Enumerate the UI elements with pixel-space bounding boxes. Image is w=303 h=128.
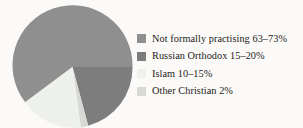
legend-swatch-russian-orthodox [137, 52, 146, 61]
legend-label-russian-orthodox: Russian Orthodox 15–20% [152, 50, 265, 62]
chart-legend: Not formally practising 63–73% Russian O… [137, 30, 303, 100]
pie-chart-figure: Not formally practising 63–73% Russian O… [0, 0, 303, 128]
legend-item-islam: Islam 10–15% [137, 65, 303, 83]
legend-swatch-other-christian [137, 87, 146, 96]
pie-chart-area [0, 0, 145, 128]
legend-label-islam: Islam 10–15% [152, 68, 212, 80]
legend-label-other-christian: Other Christian 2% [152, 85, 233, 97]
pie-chart-svg [0, 0, 145, 128]
legend-swatch-islam [137, 69, 146, 78]
legend-swatch-not-formally-practising [137, 34, 146, 43]
legend-item-russian-orthodox: Russian Orthodox 15–20% [137, 48, 303, 66]
legend-item-not-formally-practising: Not formally practising 63–73% [137, 30, 303, 48]
legend-label-not-formally-practising: Not formally practising 63–73% [152, 33, 287, 45]
legend-item-other-christian: Other Christian 2% [137, 83, 303, 101]
